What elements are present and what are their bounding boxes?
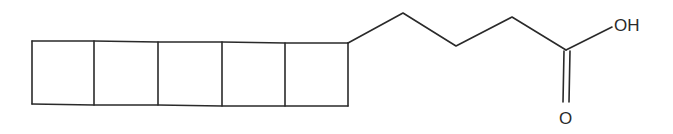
- ring-top-edge: [32, 41, 348, 43]
- chain-bonds: [348, 13, 566, 50]
- molecule-diagram: OH O: [0, 0, 673, 134]
- ladderane-rings: [32, 41, 348, 106]
- c-o-double-bond-1: [563, 51, 564, 102]
- alkyl-chain: [348, 13, 612, 102]
- c-oh-bond: [566, 27, 612, 50]
- c-o-double-bond-2: [569, 51, 570, 102]
- hydroxyl-label: OH: [614, 16, 640, 35]
- carbonyl-oxygen-label: O: [559, 109, 572, 128]
- ring-bottom-edge: [32, 104, 348, 106]
